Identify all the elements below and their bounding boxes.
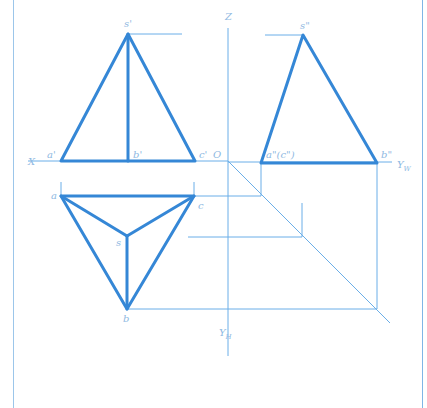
- label-b-prime: b': [133, 149, 142, 160]
- axis-label-origin: O: [213, 149, 221, 160]
- label-s-prime: s': [124, 18, 132, 29]
- label-ac-double-prime: a"(c"): [266, 149, 295, 160]
- label-a: a: [51, 190, 57, 201]
- axis-label-z: Z: [224, 11, 233, 22]
- top-view-edge-sa: [61, 196, 127, 236]
- front-view: [61, 34, 195, 161]
- label-b-double-prime: b": [381, 149, 392, 160]
- label-a-prime: a': [47, 149, 56, 160]
- label-s: s: [116, 237, 121, 248]
- top-view: [61, 196, 194, 309]
- side-view: [261, 35, 377, 163]
- axis-label-yw: YW: [397, 159, 412, 173]
- construction-lines: [28, 28, 392, 356]
- side-view-outline: [261, 35, 377, 163]
- miter-line: [228, 161, 390, 323]
- axis-label-yh: YH: [219, 327, 233, 341]
- label-s-double-prime: s": [300, 20, 310, 31]
- top-view-edge-sc: [127, 196, 194, 236]
- label-c-prime: c': [199, 149, 207, 160]
- axis-label-x: X: [27, 156, 36, 167]
- label-c: c: [198, 200, 204, 211]
- label-b: b: [123, 313, 129, 324]
